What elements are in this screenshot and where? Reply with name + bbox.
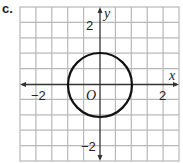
origin-label: O [86,88,96,103]
x-axis-label: x [168,68,176,83]
y-axis-up-arrow-icon [98,7,103,13]
x-tick-neg2: −2 [31,88,46,103]
x-axis-left-arrow-icon [20,82,26,87]
y-tick-2: 2 [86,18,93,33]
y-axis-label: y [102,6,111,21]
coordinate-graph: y x O −2 2 2 −2 [0,0,183,163]
x-tick-2: 2 [159,88,166,103]
y-axis-down-arrow-icon [98,155,103,161]
y-tick-neg2: −2 [81,139,96,154]
